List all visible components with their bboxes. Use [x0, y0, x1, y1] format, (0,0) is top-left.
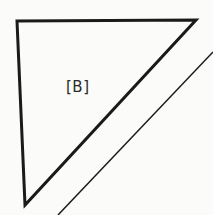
diagram-canvas: [B] [0, 0, 213, 215]
triangle-shape [17, 20, 196, 205]
diagram-svg [0, 0, 213, 215]
triangle-label: [B] [66, 78, 90, 96]
parallel-line [58, 52, 213, 215]
